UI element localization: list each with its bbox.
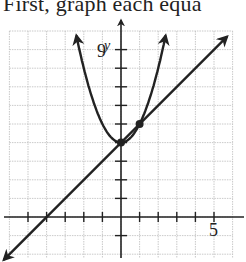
intersection-point — [117, 139, 125, 147]
x-tick-label-5: 5 — [209, 220, 218, 240]
curves — [4, 36, 227, 260]
y-axis-label: y — [102, 38, 111, 53]
graph: 9 5 y — [0, 0, 246, 262]
linear-line — [4, 37, 227, 260]
intersection-point — [136, 120, 144, 128]
